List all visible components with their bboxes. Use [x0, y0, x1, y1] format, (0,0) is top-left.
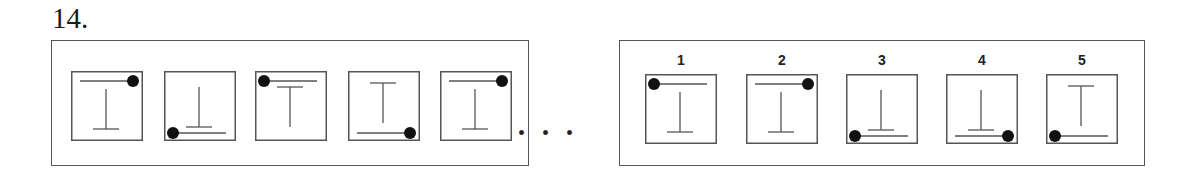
figure-drawing: [846, 74, 918, 144]
figure-drawing: [255, 71, 327, 141]
question-number: 14.: [52, 2, 88, 34]
dot-icon: [167, 127, 179, 139]
figure-drawing: [1046, 74, 1118, 144]
dot-icon: [258, 75, 270, 87]
sequence-figure-1: [71, 71, 143, 141]
figure-drawing: [348, 71, 420, 141]
dot-icon: [1049, 130, 1061, 142]
dot-icon: [404, 127, 416, 139]
dot-icon: [127, 75, 139, 87]
dot-icon: [802, 78, 814, 90]
figure-drawing: [71, 71, 143, 141]
figure-drawing: [645, 74, 717, 144]
sequence-figure-4: [348, 71, 420, 141]
option-label-1: 1: [645, 52, 717, 68]
option-figure-4[interactable]: [946, 74, 1018, 144]
figure-drawing: [440, 71, 512, 141]
dot-icon: [648, 78, 660, 90]
option-figure-5[interactable]: [1046, 74, 1118, 144]
option-figure-3[interactable]: [846, 74, 918, 144]
continuation-ellipsis: • • •: [518, 122, 579, 145]
option-figure-2[interactable]: [746, 74, 818, 144]
option-label-2: 2: [746, 52, 818, 68]
figure-drawing: [946, 74, 1018, 144]
option-label-5: 5: [1046, 52, 1118, 68]
sequence-figure-3: [255, 71, 327, 141]
sequence-figure-5: [440, 71, 512, 141]
option-figure-1[interactable]: [645, 74, 717, 144]
figure-drawing: [164, 71, 236, 141]
figure-drawing: [746, 74, 818, 144]
sequence-figure-2: [164, 71, 236, 141]
option-label-3: 3: [846, 52, 918, 68]
dot-icon: [1002, 130, 1014, 142]
dot-icon: [496, 75, 508, 87]
dot-icon: [849, 130, 861, 142]
option-label-4: 4: [946, 52, 1018, 68]
